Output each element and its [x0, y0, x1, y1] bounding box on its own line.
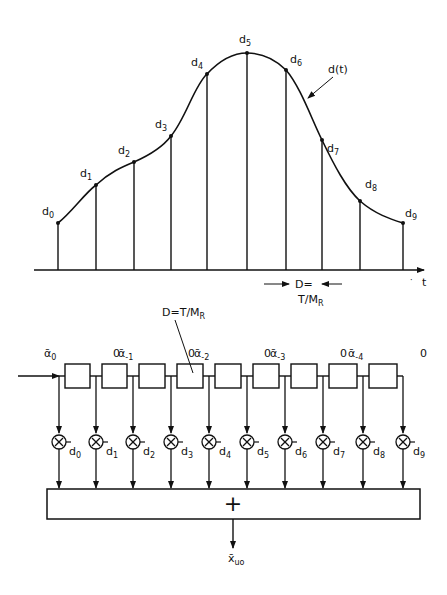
sample-point [358, 199, 362, 203]
sample-label: d1 [80, 167, 92, 182]
sample-label: d3 [155, 118, 167, 133]
sample-label: d2 [118, 144, 130, 159]
tap-coefficient-label: d1 [106, 445, 118, 460]
sample-spacing-indicator: D= T/MR [264, 278, 342, 308]
tap-coefficient-label: d2 [143, 445, 155, 460]
sample-point [169, 134, 173, 138]
delay-element [102, 364, 127, 388]
tap-coefficient-label: d0 [69, 445, 81, 460]
sample-point [205, 72, 209, 76]
tap-coefficient-label: d3 [181, 445, 193, 460]
sample-point [132, 160, 136, 164]
sample-label: d6 [290, 53, 302, 68]
input-sample-label: ᾱ-3 [270, 347, 285, 362]
curve-label-d-t: d(t) [328, 63, 348, 76]
delay-element [65, 364, 90, 388]
input-sample-label: ᾱ0 [44, 347, 56, 362]
output-label: x̄uo [228, 552, 245, 567]
input-sample-label: ᾱ-2 [194, 347, 209, 362]
sample-point [284, 68, 288, 72]
sample-point [245, 51, 249, 55]
input-sample-label: ᾱ-4 [348, 347, 363, 362]
figure-canvas: t · d0d1d2d3d4d5d6d7d8d9 d(t) D= T/MR d0… [0, 0, 447, 595]
spacing-label-d: D= [295, 278, 313, 291]
sample-label: d9 [405, 207, 417, 222]
sum-symbol: + [224, 491, 242, 516]
delay-element [215, 364, 241, 388]
tap-coefficient-label: d6 [295, 445, 307, 460]
sample-label: d4 [191, 56, 203, 71]
sample-label: d7 [327, 142, 339, 157]
sample-label: d8 [365, 178, 377, 193]
delay-element [369, 364, 397, 388]
signal-curve-d-t [58, 53, 403, 223]
delay-element-label: D=T/MR [162, 306, 206, 321]
fir-filter-diagram: d0ᾱ0d10d2ᾱ-1d30d4ᾱ-2d50d6ᾱ-3d70d8ᾱ-4d90 … [18, 306, 427, 567]
sample-label: d5 [239, 33, 251, 48]
delay-element [139, 364, 165, 388]
sample-point [56, 221, 60, 225]
delay-element [177, 364, 203, 388]
sample-label: d0 [42, 205, 54, 220]
tap-coefficient-label: d8 [373, 445, 385, 460]
delay-element [291, 364, 317, 388]
sample-point [401, 221, 405, 225]
input-sample-label: 0 [420, 347, 427, 360]
delay-element [329, 364, 357, 388]
input-sample-label: 0 [340, 347, 347, 360]
input-sample-label: ᾱ-1 [118, 347, 133, 362]
tap-coefficient-label: d9 [413, 445, 425, 460]
time-axis-label: t [422, 276, 427, 289]
sampled-signal-plot: t · d0d1d2d3d4d5d6d7d8d9 d(t) D= T/MR [34, 33, 427, 308]
svg-text:·: · [410, 276, 413, 285]
sample-point [320, 138, 324, 142]
tap-coefficient-label: d7 [333, 445, 345, 460]
delay-element [253, 364, 279, 388]
tap-coefficient-label: d4 [219, 445, 231, 460]
spacing-label-t-over-m: T/MR [297, 293, 324, 308]
sample-point [94, 183, 98, 187]
curve-label-pointer [308, 77, 333, 98]
tap-coefficient-label: d5 [257, 445, 269, 460]
